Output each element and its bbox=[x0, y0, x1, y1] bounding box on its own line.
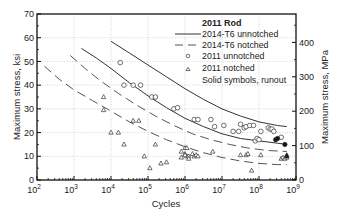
notched-triangle-marker bbox=[153, 142, 157, 146]
x-tick-label: 106 bbox=[175, 183, 189, 195]
y-tick-label-ksi: 40 bbox=[24, 80, 34, 90]
legend-entry-2011-unnotched: 2011 unnotched bbox=[202, 51, 265, 61]
unnotched-circle-marker bbox=[222, 123, 227, 128]
x-tick-label: 107 bbox=[212, 183, 226, 195]
notched-triangle-marker bbox=[249, 168, 253, 172]
unnotched-circle-marker bbox=[131, 83, 136, 88]
sn-fatigue-chart: 102103104105106107108109 010203040506070… bbox=[0, 0, 338, 213]
notched-triangle-marker bbox=[116, 130, 120, 134]
unnotched-circle-marker bbox=[259, 129, 264, 134]
y-tick-label-ksi: 30 bbox=[24, 104, 34, 114]
unnotched-circle-marker bbox=[122, 83, 127, 88]
y-tick-label-ksi: 20 bbox=[24, 128, 34, 138]
unnotched-circle-marker bbox=[236, 129, 241, 134]
runout-circle-marker bbox=[283, 142, 287, 146]
x-axis-label: Cycles bbox=[152, 198, 181, 209]
unnotched-circle-marker bbox=[272, 129, 277, 134]
notched-triangle-marker bbox=[164, 160, 168, 164]
unnotched-circle-marker bbox=[257, 137, 262, 142]
y-tick-label-ksi: 70 bbox=[24, 9, 34, 19]
notched-triangle-marker bbox=[131, 118, 135, 122]
unnotched-circle-marker bbox=[212, 124, 217, 129]
unnotched-circle-marker bbox=[175, 105, 180, 110]
legend-open-triangle-icon bbox=[186, 67, 190, 70]
unnotched-circle-marker bbox=[238, 122, 243, 127]
y-tick-label-ksi: 50 bbox=[24, 57, 34, 67]
legend-title: 2011 Rod bbox=[202, 18, 242, 28]
y-tick-label-mpa: 100 bbox=[299, 141, 314, 151]
legend-entry-runout-note: Solid symbols, runout bbox=[202, 75, 287, 85]
notched-triangle-marker bbox=[137, 118, 141, 122]
notched-triangle-marker bbox=[142, 154, 146, 158]
x-axis-ticks: 102103104105106107108109 bbox=[27, 176, 300, 195]
unnotched-circle-marker bbox=[231, 129, 236, 134]
y-tick-label-mpa: 400 bbox=[299, 38, 314, 48]
y-tick-label-mpa: 0 bbox=[299, 175, 304, 185]
legend-entry-2014-notched: 2014-T6 notched bbox=[202, 40, 269, 50]
unnotched-circle-marker bbox=[153, 95, 158, 100]
right-y-axis-label: Maximum stress, MPa bbox=[319, 49, 330, 144]
y-tick-label-mpa: 300 bbox=[299, 72, 314, 82]
2014-t6-unnotched-curve bbox=[81, 48, 286, 144]
y-tick-label-ksi: 60 bbox=[24, 33, 34, 43]
x-tick-label: 105 bbox=[138, 183, 152, 195]
unnotched-circle-marker bbox=[118, 60, 123, 65]
notched-triangle-marker bbox=[238, 153, 242, 157]
x-tick-label: 108 bbox=[249, 183, 263, 195]
notched-triangle-marker bbox=[122, 142, 126, 146]
left-y-axis-label: Maximum stress, ksi bbox=[11, 54, 22, 140]
notched-triangle-marker bbox=[148, 166, 152, 170]
legend-entry-2014-unnotched: 2014-T6 unnotched bbox=[202, 29, 278, 39]
legend-entry-2011-notched: 2011 notched bbox=[202, 63, 255, 73]
notched-triangle-marker bbox=[211, 149, 215, 153]
x-tick-label: 104 bbox=[101, 183, 115, 195]
x-tick-label: 103 bbox=[64, 183, 78, 195]
runout-triangle-marker bbox=[285, 153, 289, 157]
notched-triangle-marker bbox=[259, 153, 263, 157]
legend: 2011 Rod 2014-T6 unnotched 2014-T6 notch… bbox=[175, 18, 287, 85]
right-y-axis-ticks: 0100200300400 bbox=[292, 25, 314, 185]
notched-triangle-marker bbox=[159, 161, 163, 165]
unnotched-circle-marker bbox=[209, 117, 214, 122]
runout-circle-marker bbox=[275, 136, 279, 140]
y-tick-label-ksi: 0 bbox=[29, 175, 34, 185]
unnotched-circle-marker bbox=[251, 123, 256, 128]
unnotched-circle-marker bbox=[196, 117, 201, 122]
legend-open-circle-icon bbox=[186, 54, 190, 58]
notched-triangle-marker bbox=[101, 95, 105, 99]
left-y-axis-ticks: 010203040506070 bbox=[24, 9, 41, 185]
unnotched-circle-marker bbox=[138, 83, 143, 88]
y-tick-label-mpa: 200 bbox=[299, 106, 314, 116]
notched-triangle-marker bbox=[109, 130, 113, 134]
y-tick-label-ksi: 10 bbox=[24, 151, 34, 161]
